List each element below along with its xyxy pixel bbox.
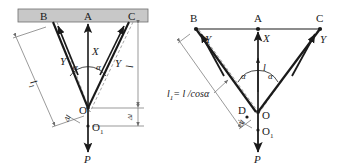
- bar-CO: [88, 22, 129, 108]
- dim-ext-l1-top: [178, 34, 190, 43]
- label-force-X: X: [262, 32, 271, 44]
- force-arrow-Y-right: [292, 34, 315, 76]
- label-delta-l: Δl: [236, 119, 246, 129]
- label-delta-l-bar: Δl: [62, 114, 72, 124]
- label-angle-left: α: [241, 71, 246, 81]
- label-force-Y-left: Y: [205, 33, 213, 45]
- equation-leader: [214, 80, 228, 93]
- label-delta-l-right: Δl: [126, 114, 134, 121]
- label-point-O: O: [79, 104, 87, 116]
- label-force-Y-right: Y: [115, 57, 123, 69]
- label-angle-left: α: [73, 62, 78, 72]
- label-point-B: B: [190, 12, 197, 24]
- label-point-C: C: [128, 10, 135, 22]
- node-A: [256, 27, 260, 31]
- figure-root: B A C X Y Y α α O O1 P l1 l Δl Δl: [0, 0, 344, 167]
- label-angle-right: α: [96, 62, 101, 72]
- label-point-O1: O1: [92, 121, 104, 136]
- label-angle-right: α: [268, 71, 273, 81]
- label-point-B: B: [40, 10, 47, 22]
- node-O1: [86, 124, 89, 127]
- label-point-O: O: [262, 109, 270, 121]
- bar-BO: [53, 22, 88, 108]
- label-length-l: l: [263, 62, 266, 73]
- node-O: [256, 110, 260, 114]
- label-point-A: A: [84, 10, 92, 22]
- dim-line-l1: [180, 42, 241, 128]
- label-force-X: X: [91, 45, 100, 57]
- right-panel-labels: B A C Y Y X l α α D O O1 P Δl l1= l /cos…: [167, 12, 328, 165]
- label-force-P: P: [83, 153, 91, 165]
- label-force-P: P: [253, 153, 261, 165]
- dim-ext-l1-top: [13, 27, 46, 38]
- label-point-O1: O1: [262, 125, 274, 140]
- label-point-C: C: [316, 12, 323, 24]
- left-diagram-svg: B A C X Y Y α α O O1 P l1 l Δl Δl: [0, 0, 344, 167]
- label-equation: l1= l /cosα: [167, 88, 210, 102]
- label-point-A: A: [254, 12, 262, 24]
- node-O1: [256, 128, 259, 131]
- label-force-Y-right: Y: [320, 33, 328, 45]
- label-point-D: D: [238, 104, 246, 116]
- label-length-l: l: [124, 65, 135, 68]
